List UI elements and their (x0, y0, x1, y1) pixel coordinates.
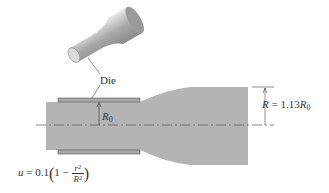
velocity-equation: u = 0.1(1 − r²R²) (18, 163, 89, 184)
r-equation: = 1.13 (269, 98, 300, 110)
extrusion-diagram: Die R0 R = 1.13R0 u = 0.1(1 − r²R²) (0, 0, 329, 193)
die-label: Die (100, 74, 116, 86)
r0-symbol: R (102, 110, 109, 122)
denominator: R² (72, 174, 84, 184)
r-symbol: R (262, 98, 269, 110)
eq-coeff: = 0.1 (24, 166, 49, 178)
die-bottom-wall (58, 150, 140, 154)
r0-subscript: 0 (109, 115, 113, 124)
leader-line (88, 58, 100, 74)
numerator: r² (72, 163, 84, 174)
extrudate-3d-icon (62, 4, 147, 70)
one-minus: 1 − (54, 166, 71, 178)
inner-radius-label: R0 (102, 110, 113, 124)
outer-radius-label: R = 1.13R0 (262, 98, 310, 112)
r-ref-subscript: 0 (306, 103, 310, 112)
leader-line (92, 85, 100, 98)
fraction: r²R² (72, 163, 84, 184)
